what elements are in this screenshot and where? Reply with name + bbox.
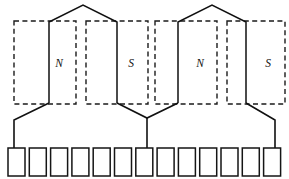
pole-label-4: S (265, 57, 271, 69)
slots-group (8, 148, 281, 176)
slot-2[interactable] (29, 148, 46, 176)
coil-left (49, 5, 117, 103)
pole-box-n-1 (14, 21, 76, 104)
slot-12[interactable] (242, 148, 259, 176)
pole-box-s-4 (227, 21, 285, 104)
pole-labels-group: NSNS (54, 57, 271, 69)
pole-box-n-3 (155, 21, 217, 104)
slot-10[interactable] (200, 148, 217, 176)
slot-9[interactable] (178, 148, 195, 176)
slot-6[interactable] (115, 148, 132, 176)
winding-diagram-canvas: NSNS (0, 0, 289, 179)
leads-group (14, 103, 275, 148)
slot-8[interactable] (157, 148, 174, 176)
vee-center (117, 103, 178, 118)
slot-3[interactable] (51, 148, 68, 176)
slot-1[interactable] (8, 148, 25, 176)
slot-4[interactable] (72, 148, 89, 176)
slot-7[interactable] (136, 148, 153, 176)
winding-diagram-svg: NSNS (0, 0, 289, 179)
lead-right (246, 103, 275, 148)
coil-right (178, 5, 246, 103)
pole-label-3: N (195, 57, 205, 69)
pole-label-1: N (54, 57, 64, 69)
pole-label-2: S (128, 57, 134, 69)
slot-13[interactable] (264, 148, 281, 176)
slot-5[interactable] (93, 148, 110, 176)
lead-left (14, 103, 49, 148)
slot-11[interactable] (221, 148, 238, 176)
